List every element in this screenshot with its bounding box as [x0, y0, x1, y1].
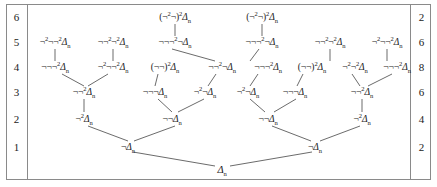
node-l3n3: ¬2¬Δn: [194, 87, 216, 97]
level-number-3-3: 3: [6, 87, 27, 98]
node-count-6-1: 6: [411, 37, 432, 48]
node-count-2-5: 2: [411, 142, 432, 153]
node-l1n2: ¬Δn: [308, 142, 322, 152]
node-l2n1: ¬2Δn: [75, 114, 92, 124]
node-l5n4: ¬¬¬2¬Δn: [246, 37, 279, 47]
node-l6n1: (¬2¬)2Δn: [159, 12, 191, 22]
level-number-2-4: 2: [6, 114, 27, 125]
node-l6n2: (¬2¬)2Δn: [246, 12, 278, 22]
level-number-column: 654321: [6, 4, 27, 180]
node-l1n1: ¬Δn: [121, 142, 135, 152]
node-l4n1: ¬¬¬2Δn: [41, 62, 69, 72]
node-l2n2: ¬¬Δn: [162, 114, 181, 124]
node-l3n2: ¬¬¬Δn: [143, 87, 167, 97]
node-l3n1: ¬¬2Δn: [73, 87, 95, 97]
node-l4n8: ¬¬¬2Δn: [383, 62, 411, 72]
node-l5n3: ¬¬¬2¬Δn: [159, 37, 192, 47]
node-l4n7: ¬2¬2Δn: [342, 62, 367, 72]
node-l5n1: ¬2¬¬2Δn: [40, 37, 71, 47]
node-l3n5: ¬¬¬Δn: [283, 87, 307, 97]
node-l4n4: ¬¬2¬Δn: [208, 62, 236, 72]
node-l5n6: ¬2¬¬2Δn: [372, 37, 403, 47]
node-l3n6: ¬¬2Δn: [351, 87, 373, 97]
node-count-column: 268642: [411, 4, 432, 180]
node-count-2-0: 2: [411, 12, 432, 23]
node-l3n4: ¬2¬Δn: [237, 87, 259, 97]
node-l4n5: ¬¬¬2Δn: [254, 62, 282, 72]
left-gutter-rule: [27, 4, 28, 180]
node-l4n6: (¬¬)2Δn: [298, 62, 326, 72]
node-count-8-2: 8: [411, 62, 432, 73]
node-l2n4: ¬2Δn: [353, 114, 370, 124]
node-l4n2: ¬2¬¬2Δn: [98, 62, 129, 72]
node-count-6-3: 6: [411, 87, 432, 98]
level-number-5-1: 5: [6, 37, 27, 48]
node-l5n2: ¬¬2¬2Δn: [98, 37, 129, 47]
node-count-4-4: 4: [411, 114, 432, 125]
node-l0n1: Δn: [217, 165, 226, 175]
node-l2n3: ¬¬Δn: [258, 114, 277, 124]
level-number-4-2: 4: [6, 62, 27, 73]
lattice-figure: 654321 268642 (¬2¬)2Δn(¬2¬)2Δn¬2¬¬2Δn¬¬2…: [0, 0, 437, 187]
level-number-6-0: 6: [6, 12, 27, 23]
node-l5n5: ¬¬2¬2Δn: [315, 37, 346, 47]
level-number-1-5: 1: [6, 142, 27, 153]
node-l4n3: (¬¬)2Δn: [151, 62, 179, 72]
